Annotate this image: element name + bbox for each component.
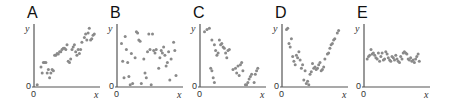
data-point	[300, 67, 303, 70]
data-point	[289, 46, 292, 49]
data-point	[301, 63, 304, 66]
data-point	[322, 66, 325, 69]
scatter-panel-c: Cyx00	[186, 0, 272, 105]
data-point	[203, 30, 206, 33]
data-point	[78, 52, 81, 55]
data-point	[234, 67, 237, 70]
data-point	[64, 48, 67, 51]
data-point	[331, 42, 334, 45]
data-point	[297, 50, 300, 53]
data-point	[130, 52, 133, 55]
data-point	[127, 75, 130, 78]
plot-area	[103, 0, 189, 105]
data-point	[250, 73, 253, 76]
data-point	[417, 53, 420, 56]
data-point	[125, 48, 128, 51]
data-point	[307, 83, 310, 86]
data-point	[149, 48, 152, 51]
data-point	[126, 61, 129, 64]
data-point	[124, 35, 127, 38]
data-point	[292, 60, 295, 63]
scatter-panel-d: Dyx00	[268, 0, 354, 105]
data-point	[235, 72, 238, 75]
data-point	[44, 61, 47, 64]
data-point	[383, 57, 386, 60]
data-point	[88, 27, 91, 30]
data-point	[212, 76, 215, 79]
data-point	[41, 72, 44, 75]
data-point	[290, 37, 293, 40]
data-point	[144, 72, 147, 75]
scatter-panel-b: Byx00	[103, 0, 189, 105]
data-point	[134, 56, 137, 59]
data-point	[389, 60, 392, 63]
data-point	[304, 69, 307, 72]
data-point	[286, 27, 289, 30]
data-point	[69, 57, 72, 60]
data-point	[213, 43, 216, 46]
data-point	[147, 33, 150, 36]
data-point	[36, 83, 39, 86]
data-point	[172, 41, 175, 44]
data-point	[83, 36, 86, 39]
data-point	[165, 64, 168, 67]
data-point	[224, 52, 227, 55]
data-point	[228, 48, 231, 51]
data-point	[253, 81, 256, 84]
data-point	[214, 49, 217, 52]
data-point	[40, 66, 43, 69]
data-point	[210, 39, 213, 42]
data-point	[306, 80, 309, 83]
data-point	[168, 79, 171, 82]
data-point	[218, 39, 221, 42]
data-point	[66, 43, 69, 46]
data-point	[46, 72, 49, 75]
data-point	[296, 56, 299, 59]
plot-area	[268, 0, 354, 105]
data-point	[175, 74, 178, 77]
data-point	[302, 79, 305, 82]
data-point	[299, 59, 302, 62]
data-point	[154, 52, 157, 55]
data-point	[213, 81, 216, 84]
data-point	[377, 52, 380, 55]
data-point	[131, 82, 134, 85]
data-point	[151, 33, 154, 36]
data-point	[145, 76, 148, 79]
data-point	[90, 37, 93, 40]
data-point	[328, 47, 331, 50]
data-point	[52, 69, 55, 72]
data-point	[123, 76, 126, 79]
data-point	[291, 55, 294, 58]
data-point	[398, 61, 401, 64]
data-point	[418, 60, 421, 63]
data-point	[140, 82, 143, 85]
plot-area	[186, 0, 272, 105]
data-point	[74, 50, 77, 53]
data-point	[246, 81, 249, 84]
data-point	[333, 37, 336, 40]
data-point	[401, 57, 404, 60]
data-point	[68, 61, 71, 64]
data-point	[162, 46, 165, 49]
data-point	[379, 55, 382, 58]
data-point	[241, 69, 244, 72]
data-point	[256, 67, 259, 70]
data-point	[376, 57, 379, 60]
plot-area	[350, 0, 436, 105]
data-point	[217, 52, 220, 55]
data-point	[409, 56, 412, 59]
data-point	[48, 76, 51, 79]
data-point	[310, 70, 313, 73]
data-point	[163, 54, 166, 57]
data-point	[386, 53, 389, 56]
plot-area	[20, 0, 106, 105]
data-point	[370, 48, 373, 51]
data-point	[139, 40, 142, 43]
data-point	[240, 61, 243, 64]
data-point	[120, 42, 123, 45]
data-point	[161, 52, 164, 55]
data-point	[80, 41, 83, 44]
data-point	[73, 43, 76, 46]
data-point	[79, 48, 82, 51]
